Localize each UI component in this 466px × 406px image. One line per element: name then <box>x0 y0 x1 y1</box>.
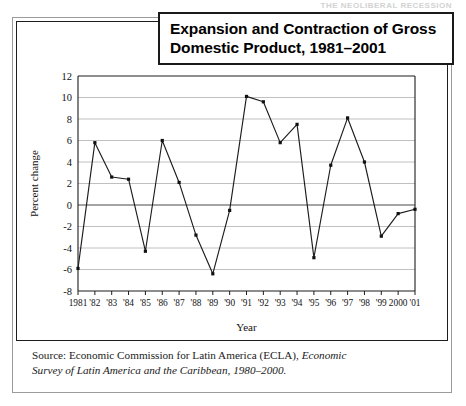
figure-container: THE NEOLIBERAL RECESSION 121086420-2-4-6… <box>0 0 466 406</box>
line-chart: 121086420-2-4-6-81981'82'83'84'85'86'87'… <box>16 66 448 338</box>
source-prefix: Source: Economic Commission for Latin Am… <box>32 349 302 361</box>
x-axis-tick-label: '90 <box>224 298 235 308</box>
data-point-marker <box>76 267 79 270</box>
data-point-marker <box>329 164 332 167</box>
x-axis-tick-label: '95 <box>308 298 319 308</box>
source-italic-part2: Survey of Latin America and the Caribbea… <box>32 364 286 376</box>
source-italic-part1: Economic <box>302 349 347 361</box>
chart-plot-area: 121086420-2-4-6-81981'82'83'84'85'86'87'… <box>16 66 448 338</box>
figure-title-line1: Expansion and Contraction of Gross <box>170 19 443 38</box>
x-axis-tick-label: '84 <box>123 298 134 308</box>
data-point-marker <box>161 139 164 142</box>
data-point-marker <box>413 208 416 211</box>
x-axis-tick-label: '83 <box>106 298 117 308</box>
running-head: THE NEOLIBERAL RECESSION <box>0 0 466 12</box>
y-axis-tick-label: 2 <box>67 178 72 189</box>
figure-title-box: Expansion and Contraction of Gross Domes… <box>158 12 454 65</box>
data-point-marker <box>245 95 248 98</box>
figure-source-note: Source: Economic Commission for Latin Am… <box>16 340 448 389</box>
x-axis-tick-label: '88 <box>190 298 201 308</box>
data-point-marker <box>93 141 96 144</box>
data-point-marker <box>363 160 366 163</box>
x-axis-tick-label: '92 <box>258 298 269 308</box>
data-point-marker <box>262 100 265 103</box>
x-axis-tick-label: '99 <box>376 298 387 308</box>
x-axis-title: Year <box>236 321 257 333</box>
x-axis-tick-label: 2000 <box>389 298 408 308</box>
x-axis-tick-label: '87 <box>174 298 185 308</box>
y-axis-tick-label: 12 <box>62 71 73 82</box>
y-axis-tick-label: -4 <box>63 243 72 254</box>
x-axis-tick-label: '01 <box>410 298 421 308</box>
y-axis-tick-label: -2 <box>63 221 72 232</box>
x-axis-tick-label: '98 <box>359 298 370 308</box>
data-point-marker <box>279 141 282 144</box>
y-axis-tick-label: 6 <box>67 135 72 146</box>
gdp-change-line <box>78 96 415 273</box>
data-point-marker <box>110 175 113 178</box>
y-axis-tick-label: -8 <box>63 286 72 297</box>
data-point-marker <box>295 123 298 126</box>
x-axis-tick-label: 1981 <box>69 298 88 308</box>
x-axis-tick-label: '94 <box>292 298 303 308</box>
y-axis-tick-label: 0 <box>67 200 72 211</box>
data-point-marker <box>211 272 214 275</box>
data-point-marker <box>127 178 130 181</box>
x-axis-tick-label: '93 <box>275 298 286 308</box>
x-axis-tick-label: '86 <box>157 298 168 308</box>
x-axis-tick-label: '89 <box>207 298 218 308</box>
x-axis-tick-label: '97 <box>342 298 353 308</box>
y-axis-tick-label: 4 <box>67 157 73 168</box>
y-axis-tick-label: -6 <box>63 264 72 275</box>
x-axis-tick-label: '91 <box>241 298 252 308</box>
data-point-marker <box>178 181 181 184</box>
data-point-marker <box>346 116 349 119</box>
data-point-marker <box>194 234 197 237</box>
y-axis-tick-label: 8 <box>67 114 72 125</box>
data-point-marker <box>312 256 315 259</box>
data-point-marker <box>144 250 147 253</box>
data-point-marker <box>228 209 231 212</box>
x-axis-tick-label: '82 <box>89 298 100 308</box>
x-axis-tick-label: '85 <box>140 298 151 308</box>
y-axis-tick-label: 10 <box>62 92 73 103</box>
figure-title-line2: Domestic Product, 1981–2001 <box>170 38 443 57</box>
x-axis-tick-label: '96 <box>325 298 336 308</box>
data-point-marker <box>397 212 400 215</box>
data-point-marker <box>380 235 383 238</box>
y-axis-title: Percent change <box>28 150 40 217</box>
